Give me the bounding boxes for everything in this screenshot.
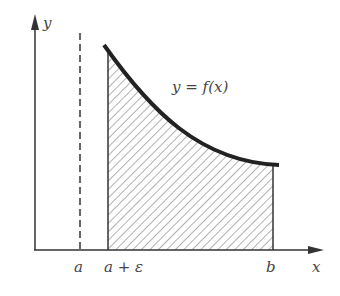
tick-label-a: a bbox=[74, 258, 83, 276]
x-axis-label: x bbox=[312, 258, 321, 276]
tick-label-a-plus-epsilon: a + ε bbox=[104, 258, 143, 276]
y-axis bbox=[31, 14, 39, 250]
diagram-canvas: y x a a + ε b y = f(x) bbox=[0, 0, 340, 296]
improper-integral-diagram: y x a a + ε b y = f(x) bbox=[0, 0, 340, 296]
tick-label-b: b bbox=[266, 258, 276, 276]
curve-label: y = f(x) bbox=[171, 78, 228, 96]
y-axis-label: y bbox=[42, 14, 52, 32]
